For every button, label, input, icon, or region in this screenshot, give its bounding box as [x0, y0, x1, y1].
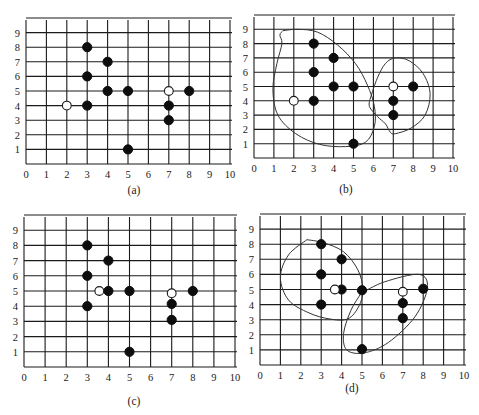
x-tick-label: 10 [225, 169, 236, 180]
x-tick-label: 2 [298, 370, 303, 381]
y-tick-label: 3 [249, 315, 254, 326]
data-point [317, 270, 326, 279]
x-tick-label: 4 [331, 163, 337, 174]
x-tick-label: 0 [21, 372, 26, 383]
y-tick-label: 4 [249, 300, 255, 311]
y-tick-label: 5 [15, 86, 20, 97]
centroid-point [62, 101, 71, 110]
data-point [164, 116, 173, 125]
centroid-point [289, 96, 298, 105]
x-tick-label: 2 [64, 372, 69, 383]
y-tick-label: 5 [243, 82, 248, 93]
data-point [103, 57, 112, 66]
y-tick-label: 6 [15, 71, 20, 82]
x-tick-label: 1 [271, 163, 276, 174]
x-tick-label: 10 [448, 163, 459, 174]
y-tick-label: 5 [249, 285, 254, 296]
x-tick-label: 9 [211, 372, 216, 383]
panel-caption: (b) [339, 183, 353, 196]
panel-a: 012345678910123456789(a) [15, 18, 236, 197]
data-point [357, 345, 366, 354]
data-point [309, 39, 318, 48]
y-tick-label: 1 [13, 347, 18, 358]
data-point [167, 299, 176, 308]
x-tick-label: 7 [166, 169, 171, 180]
data-point [188, 286, 197, 295]
x-tick-label: 2 [291, 163, 296, 174]
y-tick-label: 7 [243, 53, 248, 64]
data-point [83, 72, 92, 81]
x-tick-label: 2 [64, 169, 69, 180]
y-tick-label: 9 [13, 225, 18, 236]
x-tick-label: 10 [230, 372, 241, 383]
y-tick-label: 6 [13, 271, 18, 282]
x-tick-label: 8 [190, 372, 195, 383]
x-tick-label: 7 [169, 372, 174, 383]
centroid-point [95, 287, 104, 296]
data-point [164, 101, 173, 110]
y-tick-label: 9 [15, 28, 20, 39]
y-tick-label: 8 [249, 239, 254, 250]
data-point [329, 82, 338, 91]
data-point [389, 111, 398, 120]
panel-caption: (c) [128, 395, 141, 408]
x-tick-label: 4 [105, 169, 111, 180]
panel-b: 012345678910123456789(b) [243, 15, 459, 196]
data-point [104, 286, 113, 295]
y-tick-label: 4 [15, 101, 21, 112]
data-point [125, 286, 134, 295]
y-tick-label: 6 [243, 67, 248, 78]
x-tick-label: 3 [319, 370, 324, 381]
x-tick-label: 8 [187, 169, 192, 180]
x-tick-label: 5 [359, 370, 364, 381]
data-point [83, 101, 92, 110]
panel-d: 012345678910123456789(d) [249, 214, 470, 395]
x-tick-label: 7 [400, 370, 405, 381]
panel-caption: (d) [345, 382, 359, 395]
data-point [409, 82, 418, 91]
figure-canvas: 012345678910123456789(a) 012345678910123… [0, 0, 479, 415]
y-tick-label: 9 [249, 224, 254, 235]
data-point [185, 86, 194, 95]
centroid-point [167, 289, 176, 298]
x-tick-label: 0 [251, 163, 256, 174]
data-point [83, 271, 92, 280]
x-tick-label: 9 [207, 169, 212, 180]
data-point [83, 43, 92, 52]
data-point [103, 86, 112, 95]
x-tick-label: 0 [257, 370, 262, 381]
data-point [123, 86, 132, 95]
y-tick-label: 8 [13, 240, 18, 251]
y-tick-label: 1 [249, 345, 254, 356]
y-tick-label: 7 [249, 254, 254, 265]
x-tick-label: 0 [23, 169, 28, 180]
y-tick-label: 9 [243, 24, 248, 35]
x-tick-label: 6 [371, 163, 376, 174]
x-tick-label: 3 [85, 169, 90, 180]
cluster-outline-2 [369, 58, 430, 134]
data-point [349, 82, 358, 91]
y-tick-label: 5 [13, 286, 18, 297]
data-point [123, 145, 132, 154]
y-tick-label: 2 [15, 130, 20, 141]
y-tick-label: 8 [243, 39, 248, 50]
data-point [419, 284, 428, 293]
y-tick-label: 7 [13, 256, 18, 267]
y-tick-label: 2 [243, 124, 248, 135]
y-tick-label: 4 [243, 96, 249, 107]
data-point [167, 315, 176, 324]
y-tick-label: 3 [15, 115, 20, 126]
x-tick-label: 8 [411, 163, 416, 174]
x-tick-label: 4 [339, 370, 345, 381]
data-point [349, 139, 358, 148]
x-tick-label: 9 [430, 163, 435, 174]
y-tick-label: 3 [243, 110, 248, 121]
y-tick-label: 8 [15, 42, 20, 53]
data-point [317, 240, 326, 249]
x-tick-label: 8 [421, 370, 426, 381]
y-tick-label: 2 [13, 332, 18, 343]
x-tick-label: 3 [311, 163, 316, 174]
data-point [83, 241, 92, 250]
data-point [83, 302, 92, 311]
data-point [389, 96, 398, 105]
